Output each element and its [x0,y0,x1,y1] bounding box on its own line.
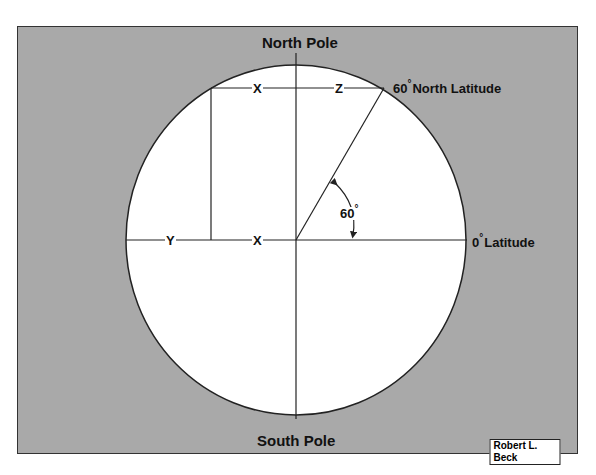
angle-label: 60° [340,207,359,220]
north-latitude-label: 60°North Latitude [393,82,501,95]
author-credit: Robert L. Beck [490,439,561,465]
equator-label: 0°Latitude [472,236,535,249]
degree-symbol: ° [407,78,411,89]
south-pole-label: South Pole [257,433,335,448]
north-latitude-degrees: 60 [393,81,407,96]
degree-symbol: ° [479,232,483,243]
segment-y-label: Y [165,234,176,247]
equator-text: Latitude [484,235,535,250]
north-latitude-text: North Latitude [412,81,501,96]
degree-symbol: ° [354,203,358,214]
angle-value: 60 [340,206,354,221]
segment-z-label: Z [334,82,344,95]
segment-x-top-label: X [252,82,263,95]
segment-x-equator-label: X [252,234,263,247]
north-pole-label: North Pole [262,35,338,50]
